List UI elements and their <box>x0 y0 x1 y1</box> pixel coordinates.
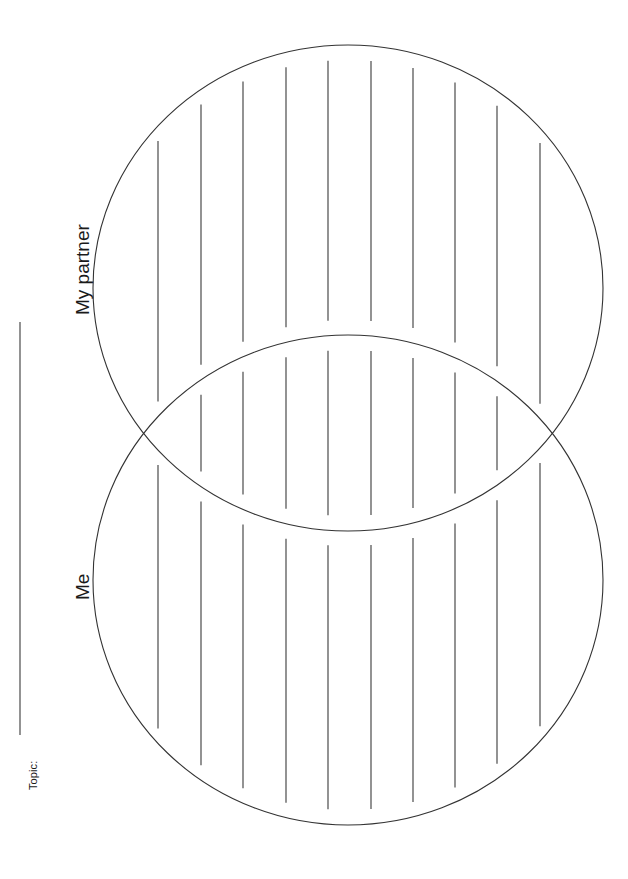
worksheet-page: Topic: Me My partner <box>0 0 628 879</box>
venn-circle-me <box>93 335 603 825</box>
topic-label: Topic: <box>27 761 39 790</box>
circle-label-me: Me <box>72 574 94 600</box>
venn-circle-partner <box>93 45 603 531</box>
venn-diagram <box>0 0 628 879</box>
venn-circles-group <box>93 45 603 825</box>
circle-label-my-partner: My partner <box>72 224 94 315</box>
writing-lines-group <box>158 61 540 809</box>
